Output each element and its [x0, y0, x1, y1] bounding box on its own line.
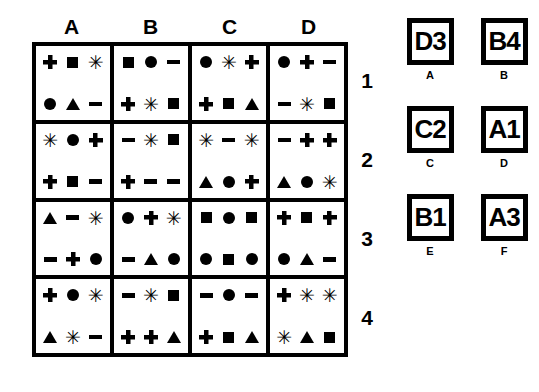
plus-icon [321, 209, 339, 227]
plus-icon [197, 328, 215, 346]
grid-column-headers: A B C D [32, 14, 348, 40]
triangle-icon [41, 328, 59, 346]
symbol-row-top [195, 129, 263, 151]
minus-icon [321, 53, 339, 71]
grid-cell-c3[interactable] [192, 202, 270, 276]
square-icon [321, 95, 339, 113]
symbol-row-top [39, 51, 107, 73]
symbol-row-top [195, 207, 263, 229]
asterisk-icon [87, 286, 105, 304]
answer-label-a: A [426, 69, 434, 81]
grid-cell-a4[interactable] [36, 279, 114, 353]
grid-cell-b4[interactable] [114, 279, 192, 353]
grid-cell-b2[interactable] [114, 124, 192, 198]
answer-option-a[interactable]: D3 A [404, 18, 456, 94]
symbol-row-top [39, 284, 107, 306]
plus-icon [275, 286, 293, 304]
asterisk-icon [87, 209, 105, 227]
symbol-row-bottom [195, 326, 263, 348]
square-icon [165, 95, 183, 113]
grid-cell-c1[interactable] [192, 46, 270, 120]
square-icon [165, 131, 183, 149]
row-number-2: 2 [354, 121, 380, 200]
column-header-c: C [190, 14, 269, 40]
answer-box-c[interactable]: C2 [407, 106, 454, 153]
grid-cell-a3[interactable] [36, 202, 114, 276]
circle-icon [275, 53, 293, 71]
minus-icon [243, 286, 261, 304]
puzzle-grid-area: A B C D 1 2 [32, 14, 350, 358]
grid-cell-d1[interactable] [270, 46, 344, 120]
asterisk-icon [87, 53, 105, 71]
grid-cell-a1[interactable] [36, 46, 114, 120]
plus-icon [142, 328, 160, 346]
answer-box-f[interactable]: A3 [481, 194, 528, 241]
asterisk-icon [321, 173, 339, 191]
symbol-row-top [117, 284, 185, 306]
symbol-row-bottom [195, 248, 263, 270]
circle-icon [220, 209, 238, 227]
grid-cell-c4[interactable] [192, 279, 270, 353]
asterisk-icon [197, 131, 215, 149]
symbol-row-bottom [117, 326, 185, 348]
grid-cell-a2[interactable] [36, 124, 114, 198]
asterisk-icon [298, 95, 316, 113]
triangle-icon [64, 95, 82, 113]
circle-icon [87, 250, 105, 268]
plus-icon [298, 53, 316, 71]
symbol-row-bottom [39, 248, 107, 270]
symbol-grid [32, 42, 348, 357]
answer-label-c: C [426, 157, 434, 169]
answer-option-e[interactable]: B1 E [404, 194, 456, 270]
symbol-row-bottom [39, 171, 107, 193]
symbol-row-top [117, 207, 185, 229]
symbol-row-bottom [195, 171, 263, 193]
answer-options-panel: D3 A B4 B C2 C A1 D B1 E A3 F [404, 18, 530, 270]
grid-cell-d2[interactable] [270, 124, 344, 198]
symbol-row-top [273, 284, 341, 306]
triangle-icon [243, 328, 261, 346]
answer-label-e: E [426, 245, 433, 257]
minus-icon [119, 250, 137, 268]
answer-option-c[interactable]: C2 C [404, 106, 456, 182]
plus-icon [41, 286, 59, 304]
answer-box-d[interactable]: A1 [481, 106, 528, 153]
symbol-row-top [117, 129, 185, 151]
grid-cell-b1[interactable] [114, 46, 192, 120]
answer-option-d[interactable]: A1 D [478, 106, 530, 182]
asterisk-icon [275, 328, 293, 346]
minus-icon [87, 95, 105, 113]
asterisk-icon [165, 209, 183, 227]
grid-cell-c2[interactable] [192, 124, 270, 198]
square-icon [220, 328, 238, 346]
grid-cell-b3[interactable] [114, 202, 192, 276]
triangle-icon [197, 173, 215, 191]
plus-icon [142, 209, 160, 227]
row-number-4: 4 [354, 278, 380, 357]
triangle-icon [275, 173, 293, 191]
triangle-icon [142, 250, 160, 268]
minus-icon [119, 131, 137, 149]
grid-cell-d3[interactable] [270, 202, 344, 276]
plus-icon [243, 53, 261, 71]
minus-icon [197, 286, 215, 304]
symbol-row-top [273, 51, 341, 73]
symbol-row-top [39, 207, 107, 229]
answer-option-f[interactable]: A3 F [478, 194, 530, 270]
circle-icon [275, 250, 293, 268]
circle-icon [142, 53, 160, 71]
answer-box-e[interactable]: B1 [407, 194, 454, 241]
square-icon [220, 95, 238, 113]
column-header-d: D [269, 14, 348, 40]
grid-cell-d4[interactable] [270, 279, 344, 353]
answer-option-b[interactable]: B4 B [478, 18, 530, 94]
asterisk-icon [142, 286, 160, 304]
answer-box-a[interactable]: D3 [407, 18, 454, 65]
minus-icon [64, 209, 82, 227]
minus-icon [142, 173, 160, 191]
plus-icon [41, 53, 59, 71]
plus-icon [119, 173, 137, 191]
asterisk-icon [64, 328, 82, 346]
answer-label-b: B [500, 69, 508, 81]
answer-box-b[interactable]: B4 [481, 18, 528, 65]
